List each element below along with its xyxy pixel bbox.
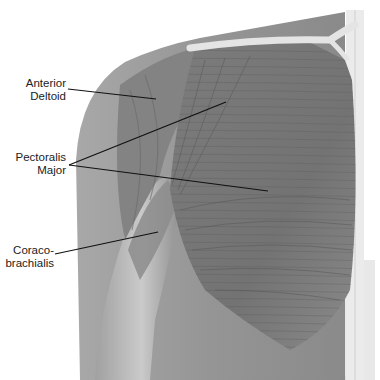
anatomy-figure: Anterior Deltoid Pectoralis Major Coraco… bbox=[0, 0, 380, 380]
label-anterior-deltoid: Anterior Deltoid bbox=[2, 77, 66, 103]
label-line: Anterior bbox=[2, 77, 66, 90]
label-line: Coraco- bbox=[0, 244, 54, 257]
label-line: Pectoralis bbox=[2, 151, 66, 164]
anatomy-illustration bbox=[0, 0, 380, 380]
label-line: Deltoid bbox=[2, 90, 66, 103]
label-line: brachialis bbox=[0, 257, 54, 270]
label-pectoralis-major: Pectoralis Major bbox=[2, 151, 66, 177]
label-line: Major bbox=[2, 164, 66, 177]
label-coracobrachialis: Coraco- brachialis bbox=[0, 244, 54, 270]
